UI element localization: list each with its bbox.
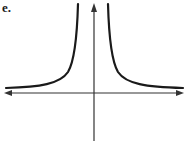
x-axis-left-arrow-icon	[4, 90, 12, 96]
y-axis	[91, 3, 97, 141]
y-axis-top-arrow-icon	[91, 3, 97, 12]
curve-right-branch	[108, 4, 183, 88]
curve-left-branch	[6, 4, 78, 88]
graph-canvas	[0, 0, 187, 142]
x-axis-right-arrow-icon	[176, 90, 184, 96]
